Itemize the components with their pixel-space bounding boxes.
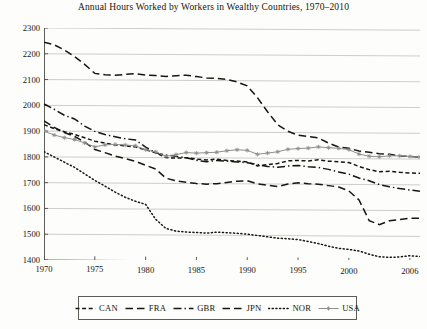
series-marker [377,155,381,159]
legend-item-nor[interactable]: NOR [268,303,311,313]
legend-label: USA [342,303,360,313]
legend-item-gbr[interactable]: GBR [173,303,215,313]
series-marker [367,154,371,158]
series-marker [418,155,420,159]
series-marker [286,147,290,151]
series-marker [62,136,66,140]
gridline [44,105,420,107]
series-marker [154,150,158,154]
series-marker [296,146,300,150]
chart-title: Annual Hours Worked by Workers in Wealth… [0,2,427,12]
chart-legend: CANFRAGBRJPNNORUSA [78,296,357,320]
y-axis-tick-label: 2000 [23,100,40,110]
legend-label: GBR [197,303,215,313]
series-line-jpn [44,42,420,157]
series-marker [225,149,229,153]
x-axis-tick-label: 2006 [401,266,418,276]
series-marker [72,137,76,141]
dash-dot-swatch [173,304,194,313]
series-marker [316,145,320,149]
series-jpn [44,42,420,157]
legend-item-fra[interactable]: FRA [125,303,166,313]
legend-item-can[interactable]: CAN [75,303,118,313]
series-marker [337,146,341,150]
x-axis-labels: 19701975198019851990199520002006 [44,262,420,278]
y-axis-tick-label: 2200 [23,49,40,59]
x-axis-tick-label: 1985 [188,265,205,275]
series-marker [103,143,107,147]
series-marker [387,154,391,158]
y-axis-tick-label: 1700 [23,178,40,188]
series-marker [194,151,198,155]
gridline [44,234,420,236]
gridline [44,28,420,30]
series-gbr [44,104,420,191]
plot-svg [44,28,420,260]
series-marker [326,146,330,150]
x-axis-tick-label: 2000 [340,266,357,276]
x-axis-tick-label: 1990 [239,265,256,275]
y-axis-tick-label: 1800 [23,152,40,162]
gridline [44,157,420,159]
series-marker [265,151,269,155]
series-marker [245,148,249,152]
y-axis-tick-label: 2300 [23,23,40,33]
series-marker [306,146,310,150]
y-axis-tick-label: 1500 [23,229,40,239]
y-axis-tick-label: 1600 [23,203,40,213]
short-dash-swatch [75,304,96,313]
series-marker [204,151,208,155]
y-axis-tick-label: 1900 [23,126,40,136]
long-dash-swatch [222,304,243,313]
series-marker [215,150,219,154]
series-marker [255,152,259,156]
legend-marker [327,306,331,310]
solid-star-swatch [318,304,339,313]
series-marker [164,154,168,158]
long-dash-swatch [125,304,146,313]
series-marker [123,143,127,147]
y-axis-labels: 2300220021002000190018001700160015001400 [0,28,40,260]
series-marker [83,141,87,145]
series-marker [347,148,351,152]
series-marker [276,150,280,154]
legend-item-jpn[interactable]: JPN [222,303,261,313]
series-marker [184,150,188,154]
gridline [44,54,420,56]
chart-figure: Annual Hours Worked by Workers in Wealth… [0,0,427,329]
legend-label: CAN [99,303,118,313]
x-axis-tick-label: 1980 [137,265,154,275]
series-marker [52,133,56,137]
series-marker [44,129,46,133]
series-marker [133,144,137,148]
series-marker [398,154,402,158]
series-marker [357,152,361,156]
legend-item-usa[interactable]: USA [318,303,360,313]
series-line-usa [44,131,420,157]
series-marker [144,148,148,152]
legend-label: FRA [149,303,166,313]
dotted-swatch [268,304,289,313]
legend-label: JPN [246,303,261,313]
series-line-gbr [44,104,420,191]
plot-area [44,28,420,260]
series-marker [113,142,117,146]
series-marker [235,148,239,152]
legend-label: NOR [292,303,311,313]
series-marker [408,154,412,158]
series-marker [93,145,97,149]
y-axis-tick-label: 2100 [23,75,40,85]
x-axis-tick-label: 1975 [86,264,103,274]
series-marker [174,152,178,156]
x-axis-tick-label: 1970 [35,264,52,274]
x-axis-tick-label: 1995 [289,265,306,275]
